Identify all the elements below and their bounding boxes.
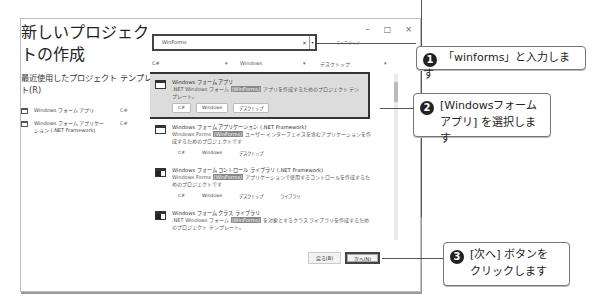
callout-step-3: 3[次へ] ボタンを クリックします	[443, 242, 570, 286]
recent-template-item[interactable]: Windows フォーム アプリケーション (.NET Framework) C…	[21, 120, 161, 134]
step-number-badge: 1	[423, 53, 437, 67]
platform-filter[interactable]: Windows	[240, 60, 262, 66]
template-item-windows-forms-class-library[interactable]: Windows フォーム クラス ライブラリ .NET Windows フォーム…	[150, 205, 377, 235]
template-item-windows-forms-control-library[interactable]: Windows フォーム コントロール ライブラリ (.NET Framewor…	[150, 162, 377, 205]
chevron-down-icon[interactable]: ▾	[384, 60, 387, 66]
close-button[interactable]: ×	[405, 25, 412, 34]
language-filter[interactable]: C#	[152, 60, 160, 66]
template-list-scrollbar[interactable]	[394, 74, 398, 240]
callout-connector	[380, 108, 413, 109]
recent-template-name: Windows フォーム アプリケーション (.NET Framework)	[34, 120, 106, 134]
step-number-badge: 2	[420, 101, 434, 115]
tag-badge: デスクトップ	[233, 191, 269, 201]
back-button[interactable]: 戻る(B)	[308, 252, 341, 264]
callout-step-1: 1「winforms」と入力します	[416, 46, 586, 70]
scrollbar-thumb[interactable]	[394, 82, 398, 102]
chevron-down-icon[interactable]: ▾	[225, 60, 228, 66]
tag-badge: ライブラリ	[274, 191, 306, 201]
tag-badge: デスクトップ	[233, 103, 269, 113]
callout-step-2: 2[Windowsフォーム アプリ] を選択します	[413, 93, 551, 137]
recent-templates-heading: 最近使用したプロジェクト テンプレート(R)	[21, 72, 161, 96]
search-value: WinForms	[162, 39, 187, 45]
class-library-icon	[155, 211, 166, 220]
tag-badge: Windows	[196, 148, 228, 158]
template-title: Windows フォーム アプリケーション (.NET Framework)	[172, 123, 373, 131]
template-search-input[interactable]: WinForms × ▾	[152, 34, 317, 51]
tag-badge: C#	[172, 148, 191, 158]
callout-connector	[382, 258, 443, 259]
window-controls: – □ ×	[366, 25, 412, 34]
template-item-windows-forms-app-netfx[interactable]: Windows フォーム アプリケーション (.NET Framework) W…	[150, 119, 377, 162]
template-description: .NET Windows フォーム (WinForms) アプリを作成するための…	[172, 86, 364, 100]
search-dropdown-icon[interactable]: ▾	[309, 36, 315, 49]
callout-connector	[421, 137, 422, 217]
step-number-badge: 3	[450, 250, 464, 264]
callout-connector	[421, 0, 422, 46]
recent-template-item[interactable]: Windows フォーム アプリ C#	[21, 107, 161, 114]
minimize-button[interactable]: –	[366, 25, 370, 34]
callout-connector	[421, 70, 422, 93]
chevron-down-icon[interactable]: ▾	[303, 60, 306, 66]
tag-badge: C#	[172, 103, 191, 113]
recent-template-name: Windows フォーム アプリ	[34, 107, 106, 114]
page-title: 新しいプロジェクトの作成	[21, 22, 161, 66]
recent-template-lang: C#	[120, 120, 128, 126]
template-description: .NET Windows フォーム (WinForms) を対象とするクラス ラ…	[172, 217, 373, 231]
tag-badge: C#	[172, 191, 191, 201]
window-icon	[155, 80, 166, 89]
window-icon	[21, 121, 28, 127]
template-description: Windows Forms (WinForms) アプリケーションで使用するコン…	[172, 174, 373, 188]
tag-badge: Windows	[196, 191, 228, 201]
template-title: Windows フォーム クラス ライブラリ	[172, 209, 373, 217]
template-item-windows-forms-app[interactable]: Windows フォーム アプリ .NET Windows フォーム (WinF…	[150, 72, 370, 119]
project-type-filter[interactable]: デスクトップ	[320, 60, 350, 67]
next-button[interactable]: 次へ(N)	[345, 252, 380, 264]
recent-template-lang: C#	[120, 107, 128, 113]
maximize-button[interactable]: □	[384, 25, 392, 34]
template-title: Windows フォーム アプリ	[172, 78, 364, 86]
template-title: Windows フォーム コントロール ライブラリ (.NET Framewor…	[172, 166, 373, 174]
clear-search-icon[interactable]: ×	[302, 36, 307, 49]
template-description: Windows Forms (WinForms) ユーザー インターフェイスを含…	[172, 131, 373, 145]
tag-badge: Windows	[196, 103, 228, 113]
control-library-icon	[155, 168, 166, 177]
tag-badge: デスクトップ	[233, 148, 269, 158]
window-icon	[21, 108, 28, 114]
template-list: Windows フォーム アプリ .NET Windows フォーム (WinF…	[150, 72, 377, 242]
callout-connector	[317, 43, 416, 44]
window-icon	[155, 125, 166, 134]
